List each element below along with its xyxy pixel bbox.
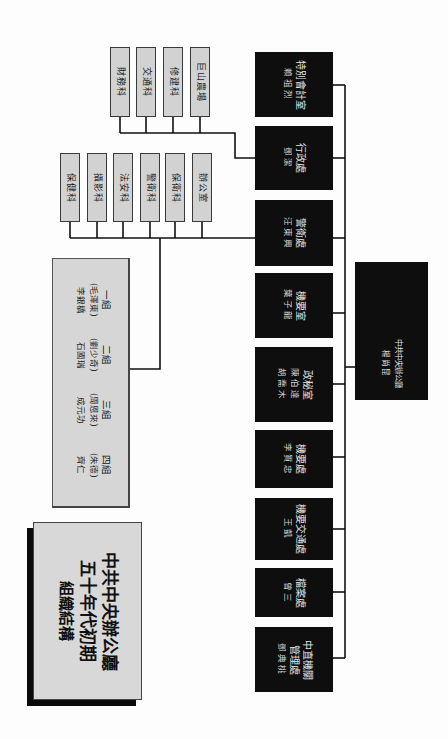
dept-head: 曾三 (281, 578, 294, 608)
dept-name: 警衛處 (294, 217, 307, 250)
dept-name: 機要室 (294, 289, 307, 322)
section-label: 警衛科 (145, 173, 156, 203)
dept-name: 行政處 (294, 143, 307, 173)
org-chart: 中共中央辦公廳 楊尚昆 特別會計室 賴祖烈 行政處 鄧潔 警衛處 汪東興 機要室… (0, 0, 448, 739)
root-office-head: 楊尚昆 (379, 339, 392, 388)
dept-confidential-bureau: 機要處 李質忠 (255, 430, 333, 488)
dept-head: 陳伯達 (288, 368, 301, 401)
group-leader: (周恩來) (87, 390, 100, 430)
dept-name: 機要處 (294, 443, 307, 476)
group-member: 石國瑞 (74, 335, 87, 375)
section-label: 法安科 (118, 173, 129, 203)
dept-head: 賴祖烈 (281, 60, 294, 110)
dept-head-2: 胡喬木 (275, 368, 288, 401)
group-member: 齊仁 (74, 445, 87, 485)
dept-administration: 行政處 鄧潔 (255, 126, 333, 190)
title-line-3: 組織結構 (55, 552, 77, 671)
admin-section-transport: 交通科 (136, 47, 156, 117)
section-label: 保衛科 (170, 173, 181, 203)
dept-special-accounting: 特別會計室 賴祖烈 (255, 52, 333, 117)
security-section-health: 保健科 (60, 153, 80, 222)
dept-name: 政秘室 (301, 368, 314, 401)
chart-title: 中共中央辦公廳 五十年代初期 組織結構 (55, 552, 121, 671)
dept-name: 檔案處 (294, 578, 307, 608)
title-line-1: 中共中央辦公廳 (99, 552, 121, 671)
group-member: 李銀橋 (74, 280, 87, 320)
dept-political-secretariat: 政秘室 陳伯達 胡喬木 (255, 347, 333, 422)
guard-group-1: 一組 (毛澤東) 李銀橋 (74, 280, 113, 320)
security-section-guard: 警衛科 (140, 153, 160, 222)
chart-title-box: 中共中央辦公廳 五十年代初期 組織結構 (33, 522, 142, 700)
section-label: 財務科 (115, 67, 126, 97)
title-line-2: 五十年代初期 (77, 552, 99, 671)
admin-section-farm: 巨山農場 (190, 47, 210, 117)
root-office-box: 中共中央辦公廳 楊尚昆 (355, 262, 428, 400)
dept-head: 王凱 (281, 504, 294, 554)
group-leader: (朱德) (87, 445, 100, 485)
dept-name-2: 管理處 (288, 640, 301, 680)
dept-archives: 檔案處 曾三 (255, 568, 333, 617)
security-section-protection: 保衛科 (165, 153, 185, 222)
guard-group-3: 三組 (周恩來) 成元功 (74, 390, 113, 430)
section-label: 交通科 (141, 67, 152, 97)
dept-name: 特別會計室 (294, 60, 307, 110)
dept-confidential-communications: 機要交通處 王凱 (255, 498, 333, 560)
section-label: 攝影科 (92, 173, 103, 203)
group-label: 四組 (100, 445, 113, 485)
dept-head: 葉子龍 (281, 289, 294, 322)
dept-confidential-office: 機要室 葉子龍 (255, 273, 333, 338)
security-section-photography: 攝影科 (87, 153, 107, 222)
dept-head: 汪東興 (281, 217, 294, 250)
dept-security: 警衛處 汪東興 (255, 200, 333, 266)
dept-head: 李質忠 (281, 443, 294, 476)
root-office-label: 中共中央辦公廳 楊尚昆 (379, 339, 405, 388)
group-leader: (毛澤東) (87, 280, 100, 320)
section-label: 保健科 (65, 173, 76, 203)
group-label: 一組 (100, 280, 113, 320)
admin-section-finance: 財務科 (110, 47, 130, 117)
group-label: 三組 (100, 390, 113, 430)
section-label: 巨山農場 (195, 62, 206, 102)
dept-central-organs-management: 中直機關 管理處 鄧典桃 (255, 627, 333, 692)
section-label: 辦公室 (197, 173, 208, 203)
group-label: 二組 (100, 335, 113, 375)
guard-groups-box: 一組 (毛澤東) 李銀橋 二組 (劉少奇) 石國瑞 三組 (周恩來) 成元功 四… (52, 258, 130, 508)
group-leader: (劉少奇) (87, 335, 100, 375)
group-member: 成元功 (74, 390, 87, 430)
security-section-public-order: 法安科 (113, 153, 133, 222)
dept-head: 鄧典桃 (275, 640, 288, 680)
section-label: 修建科 (168, 67, 179, 97)
admin-section-construction: 修建科 (163, 47, 183, 117)
guard-group-2: 二組 (劉少奇) 石國瑞 (74, 335, 113, 375)
root-office-name: 中共中央辦公廳 (392, 339, 405, 388)
dept-head: 鄧潔 (281, 143, 294, 173)
guard-group-4: 四組 (朱德) 齊仁 (74, 445, 113, 485)
dept-name: 中直機關 (301, 640, 314, 680)
security-section-office: 辦公室 (192, 153, 212, 222)
dept-name: 機要交通處 (294, 504, 307, 554)
